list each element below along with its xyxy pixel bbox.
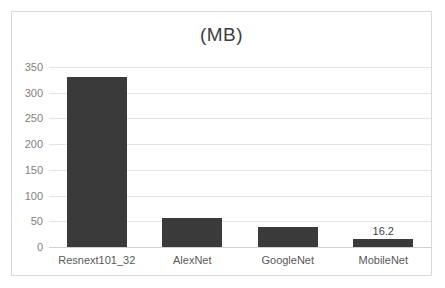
chart-frame: (MB) 050100150200250300350 Resnext101_32… bbox=[11, 11, 432, 276]
y-axis-tick-label: 150 bbox=[25, 164, 43, 176]
bar[interactable] bbox=[67, 77, 127, 247]
x-axis-category-label: Resnext101_32 bbox=[58, 254, 135, 266]
y-axis-tick-label: 100 bbox=[25, 190, 43, 202]
gridline bbox=[49, 247, 431, 248]
y-axis-tick-label: 50 bbox=[31, 215, 43, 227]
y-axis-tick-label: 200 bbox=[25, 138, 43, 150]
bar[interactable] bbox=[353, 239, 413, 247]
bar-group: GoogleNet bbox=[240, 67, 336, 247]
y-axis-tick-label: 300 bbox=[25, 87, 43, 99]
bar-group: AlexNet bbox=[145, 67, 241, 247]
x-axis-category-label: GoogleNet bbox=[261, 254, 314, 266]
chart-title: (MB) bbox=[12, 24, 431, 46]
y-axis-tick-label: 250 bbox=[25, 112, 43, 124]
y-axis-tick-label: 0 bbox=[37, 241, 43, 253]
bar[interactable] bbox=[258, 227, 318, 247]
y-axis-tick-label: 350 bbox=[25, 61, 43, 73]
bar-group: Resnext101_32 bbox=[49, 67, 145, 247]
bar-value-label: 16.2 bbox=[373, 225, 394, 237]
bar-series: Resnext101_32AlexNetGoogleNet16.2MobileN… bbox=[49, 67, 431, 247]
bar-group: 16.2MobileNet bbox=[336, 67, 432, 247]
x-axis-category-label: MobileNet bbox=[358, 254, 408, 266]
bar[interactable] bbox=[162, 218, 222, 247]
plot-area: 050100150200250300350 Resnext101_32AlexN… bbox=[49, 67, 431, 247]
x-axis-category-label: AlexNet bbox=[173, 254, 212, 266]
